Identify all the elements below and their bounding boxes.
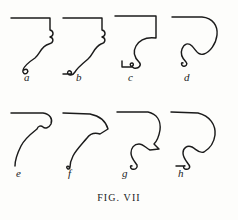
profile-outline-g: [117, 112, 160, 169]
molding-profile-f: [62, 108, 120, 192]
figure-caption: FIG. VII: [0, 192, 238, 203]
molding-profile-d: [170, 12, 228, 96]
profile-drawing-f: [62, 108, 120, 192]
molding-profile-e: [10, 108, 68, 192]
profile-label-d: d: [184, 72, 238, 83]
molding-profile-b: [62, 12, 120, 96]
profile-outline-d: [172, 17, 217, 66]
profile-outline-b: [63, 18, 105, 75]
molding-profile-g: [116, 108, 174, 192]
molding-profile-h: [170, 108, 228, 192]
profile-drawing-e: [10, 108, 68, 192]
profile-label-h: h: [178, 168, 236, 179]
profile-drawing-h: [170, 108, 228, 192]
profile-drawing-a: [10, 12, 68, 96]
profile-drawing-g: [116, 108, 174, 192]
profile-outline-e: [11, 113, 52, 166]
profile-outline-h: [171, 112, 215, 169]
profile-outline-c: [115, 16, 156, 68]
profile-drawing-c: [114, 12, 172, 96]
profile-drawing-d: [170, 12, 228, 96]
profile-drawing-b: [62, 12, 120, 96]
molding-profile-a: [10, 12, 68, 96]
figure-plate: a b c d e f g h: [0, 0, 238, 220]
profile-outline-a: [11, 18, 53, 74]
profile-outline-f: [63, 113, 108, 169]
molding-profile-c: [114, 12, 172, 96]
